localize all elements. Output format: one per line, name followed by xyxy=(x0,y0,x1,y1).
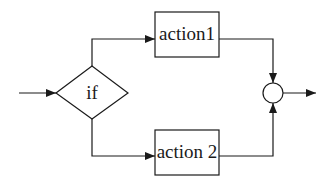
action1-label: action1 xyxy=(159,23,215,44)
action2-label: action 2 xyxy=(157,141,218,162)
edge-condition-to-action2 xyxy=(92,119,155,156)
edge-condition-to-action1 xyxy=(92,39,155,66)
condition-node: if xyxy=(56,66,128,119)
action1-node: action1 xyxy=(155,12,219,57)
flowchart-diagram: if action1 action 2 xyxy=(0,0,336,184)
edge-action2-to-merge xyxy=(219,103,273,156)
condition-label: if xyxy=(86,82,98,103)
edge-action1-to-merge xyxy=(219,39,273,83)
merge-node xyxy=(263,83,283,103)
action2-node: action 2 xyxy=(155,130,219,175)
